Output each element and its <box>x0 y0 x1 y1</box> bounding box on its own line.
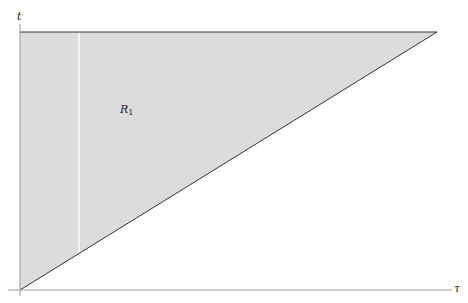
region-diagram: t τ R1 <box>0 0 468 303</box>
x-axis-label: τ <box>454 282 461 295</box>
y-axis-label: t <box>17 10 22 23</box>
region-label-main: R <box>119 103 128 116</box>
region-label-sub: 1 <box>128 108 133 117</box>
